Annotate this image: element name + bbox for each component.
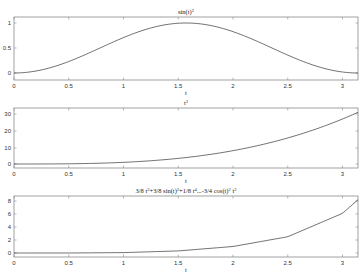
subplot-combined-expression: 00.511.522.5302468t3/8 t2+3/8 sin(t)2+1/…	[8, 187, 358, 274]
y-tick-label: 0.5	[3, 45, 12, 51]
x-tick-label: 0.5	[65, 83, 74, 89]
axes-frame	[14, 196, 358, 257]
figure: 00.511.522.5300.51tsin(t)2 00.511.522.53…	[0, 0, 364, 277]
y-tick-label: 30	[4, 111, 11, 117]
x-tick-label: 3	[341, 260, 345, 266]
x-axis-label: t	[185, 89, 187, 96]
x-tick-label: 2	[231, 83, 235, 89]
x-tick-label: 0	[12, 171, 16, 177]
x-axis-label: t	[185, 177, 187, 184]
y-tick-label: 0	[8, 70, 12, 76]
x-tick-label: 1	[122, 171, 126, 177]
x-tick-label: 3	[341, 83, 345, 89]
x-tick-label: 1	[122, 83, 126, 89]
y-tick-label: 0	[8, 250, 12, 256]
x-tick-label: 1.5	[174, 260, 183, 266]
subplot-t-cubed: 00.511.522.530102030tt3	[4, 99, 358, 185]
subplot-title: t3	[184, 99, 189, 107]
x-tick-label: 2	[231, 260, 235, 266]
x-tick-label: 0.5	[65, 171, 74, 177]
y-tick-label: 20	[4, 128, 11, 134]
x-tick-label: 2.5	[284, 83, 293, 89]
y-tick-label: 10	[4, 145, 11, 151]
y-tick-label: 2	[8, 237, 12, 243]
y-tick-label: 1	[8, 20, 12, 26]
x-tick-label: 1.5	[174, 83, 183, 89]
y-tick-label: 0	[8, 161, 12, 167]
x-tick-label: 2.5	[284, 171, 293, 177]
subplot-title: 3/8 t2+3/8 sin(t)2+1/8 t4...-3/4 cos(t)2…	[136, 187, 237, 196]
subplot-title: sin(t)2	[178, 8, 194, 17]
x-tick-label: 0	[12, 260, 16, 266]
subplot-sin-squared: 00.511.522.5300.51tsin(t)2	[3, 8, 358, 97]
x-tick-label: 2.5	[284, 260, 293, 266]
axes-frame	[14, 17, 358, 80]
y-tick-label: 6	[8, 211, 12, 217]
x-tick-label: 1.5	[174, 171, 183, 177]
x-tick-label: 1	[122, 260, 126, 266]
x-axis-label: t	[185, 266, 187, 273]
x-tick-label: 0.5	[65, 260, 74, 266]
axes-frame	[14, 108, 358, 168]
y-tick-label: 8	[8, 198, 12, 204]
x-tick-label: 0	[12, 83, 16, 89]
x-tick-label: 3	[341, 171, 345, 177]
y-tick-label: 4	[8, 224, 12, 230]
x-tick-label: 2	[231, 171, 235, 177]
